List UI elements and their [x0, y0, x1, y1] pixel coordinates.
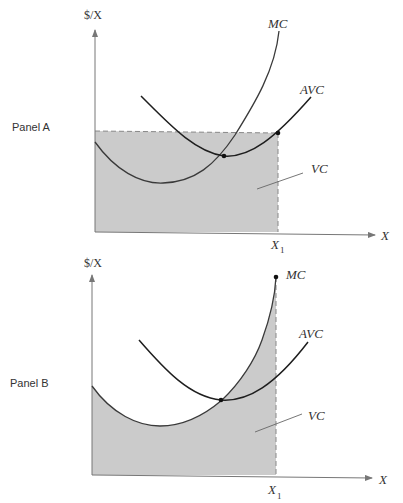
panel-b: $/X MC AVC VC X X 1 Panel B: [10, 256, 388, 501]
avc-label: AVC: [299, 82, 324, 97]
mc-label: MC: [285, 267, 306, 282]
x-axis-label: X: [378, 472, 388, 487]
vc-label: VC: [311, 161, 328, 176]
x1-tick-subscript: 1: [277, 491, 282, 501]
avc-label: AVC: [298, 326, 323, 341]
vc-label: VC: [308, 408, 325, 423]
y-axis-label: $/X: [84, 256, 102, 270]
panel-a-label: Panel A: [12, 121, 51, 133]
x-axis: [92, 475, 372, 478]
mc-avc-intersection-point: [219, 398, 224, 403]
cost-curves-figure: $/X MC AVC VC X X 1 Panel A $/X MC AVC V…: [0, 0, 403, 503]
avc-at-x1-point: [276, 131, 281, 136]
x1-tick-label: X: [270, 237, 280, 252]
x1-tick-subscript: 1: [280, 245, 285, 255]
x-axis: [95, 232, 375, 235]
panel-b-label: Panel B: [10, 377, 49, 389]
x1-tick-label: X: [267, 482, 277, 497]
avc-curve: [139, 340, 308, 400]
y-axis-label: $/X: [84, 8, 102, 22]
mc-label: MC: [267, 16, 288, 31]
x-axis-label: X: [380, 228, 390, 243]
panel-a: $/X MC AVC VC X X 1 Panel A: [12, 8, 390, 255]
mc-at-x1-point: [274, 275, 279, 280]
vc-shaded-rectangle: [95, 131, 278, 232]
vc-shaded-area-under-mc: [92, 277, 276, 475]
mc-avc-intersection-point: [222, 154, 227, 159]
